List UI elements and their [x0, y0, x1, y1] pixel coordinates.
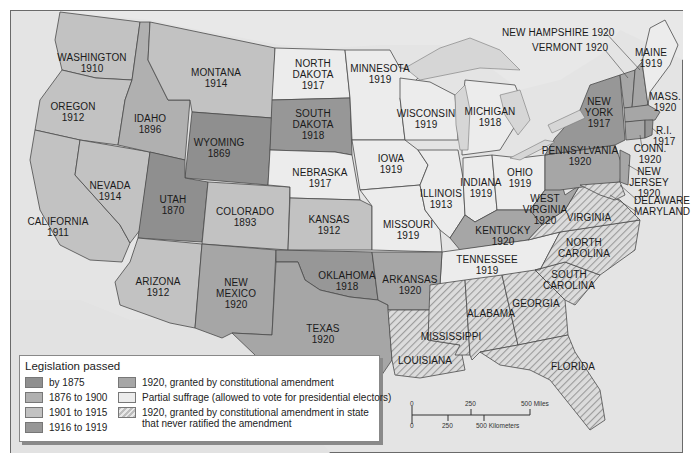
state-year: 1910: [81, 63, 104, 74]
state-year: 1919: [415, 119, 438, 130]
state-name: UTAH: [160, 194, 187, 205]
state-name: INDIANA: [460, 177, 501, 188]
state-year: 1911: [47, 227, 69, 238]
label-louisiana: LOUISIANA: [398, 355, 452, 366]
state-year: 1912: [62, 112, 85, 123]
label-new-york: NEW YORK1917: [585, 96, 614, 129]
swatch-partial-suffrage: [118, 392, 136, 403]
state-name: MARYLAND: [634, 206, 690, 217]
state-year: 1917: [588, 118, 611, 129]
label-ohio: OHIO1919: [507, 167, 533, 189]
state-year: 1920: [312, 334, 335, 345]
state-name: IOWA: [378, 153, 405, 164]
state-name: NEBRASKA: [292, 167, 347, 178]
state-year: 1914: [205, 78, 228, 89]
label-vermont: VERMONT 1920: [532, 42, 608, 53]
legend-item-partial-suffrage: Partial suffrage (allowed to vote for pr…: [118, 392, 391, 403]
state-year: 1920: [225, 299, 248, 310]
scale-bar: 0 250 500 Miles 0 250 500 Kilometers: [408, 400, 538, 430]
state-name: SOUTH CAROLINA: [543, 269, 595, 291]
label-florida: FLORIDA: [551, 361, 595, 372]
state-year: 1919: [369, 74, 392, 85]
state-name: MAINE: [635, 47, 667, 58]
state-name: WASHINGTON: [57, 52, 126, 63]
state-name: COLORADO: [216, 206, 274, 217]
state-name: NORTH DAKOTA: [293, 58, 334, 80]
label-utah: UTAH1870: [160, 194, 187, 216]
label-massachusetts: MASS.1920: [649, 91, 681, 113]
state-name: VIRGINIA: [567, 212, 612, 223]
state-name: NEW JERSEY: [629, 166, 669, 188]
label-tennessee: TENNESSEE1919: [456, 254, 517, 276]
state-year: 1919: [640, 58, 663, 69]
label-south-dakota: SOUTH DAKOTA1918: [293, 108, 334, 141]
label-michigan: MICHIGAN1918: [465, 106, 516, 128]
state-name: NORTH CAROLINA: [558, 237, 610, 259]
legend-label: Partial suffrage (allowed to vote for pr…: [142, 392, 391, 403]
scale-miles-zero: 0: [410, 400, 414, 407]
state-name: NEW HAMPSHIRE 1920: [502, 27, 614, 38]
state-name: OHIO: [507, 167, 533, 178]
legend-title: Legislation passed: [25, 360, 120, 372]
state-name: WISCONSIN: [397, 108, 456, 119]
state-year: 1918: [336, 281, 359, 292]
swatch-1920-amendment: [118, 377, 136, 388]
state-year: 1920: [399, 285, 422, 296]
state-year: 1896: [139, 124, 162, 135]
state-year: 1919: [476, 265, 499, 276]
legend-item-by-1875: by 1875: [25, 377, 85, 388]
legend-item-1901-1915: 1901 to 1915: [25, 407, 107, 418]
label-connecticut: CONN.1920: [634, 143, 667, 165]
state-year: 1893: [234, 217, 257, 228]
legend-label: by 1875: [49, 377, 85, 388]
label-idaho: IDAHO1896: [134, 113, 166, 135]
state-name: IDAHO: [134, 113, 166, 124]
label-illinois: ILLINOIS1913: [420, 188, 462, 210]
legend-label: 1916 to 1919: [49, 422, 107, 433]
label-pennsylvania: PENNSYLVANIA1920: [542, 145, 618, 167]
state-year: 1869: [208, 148, 231, 159]
state-year: 1918: [479, 117, 502, 128]
state-name: MISSOURI: [383, 219, 433, 230]
state-year: 1918: [302, 130, 325, 141]
label-kentucky: KENTUCKY1920: [475, 225, 530, 247]
label-indiana: INDIANA1919: [460, 177, 501, 199]
label-kansas: KANSAS1912: [308, 214, 349, 236]
state-year: 1920: [569, 156, 592, 167]
label-iowa: IOWA1919: [378, 153, 405, 175]
label-oklahoma: OKLAHOMA1918: [318, 270, 375, 292]
state-name: CONN.: [634, 143, 667, 154]
label-arkansas: ARKANSAS1920: [382, 274, 437, 296]
state-year: 1920: [534, 215, 557, 226]
state-year: 1917: [309, 178, 332, 189]
state-name: WEST VIRGINIA: [523, 193, 568, 215]
state-name: OKLAHOMA: [318, 270, 375, 281]
legend-item-1916-1919: 1916 to 1919: [25, 422, 107, 433]
legend-label: 1920, granted by constitutional amendmen…: [142, 407, 369, 429]
state-name: SOUTH DAKOTA: [293, 108, 334, 130]
state-name: LOUISIANA: [398, 355, 452, 366]
label-california: CALIFORNIA1911: [27, 216, 88, 238]
state-name: VERMONT 1920: [532, 42, 608, 53]
label-georgia: GEORGIA: [512, 298, 559, 309]
state-name: NEW YORK: [585, 96, 614, 118]
state-name: NEVADA: [90, 180, 131, 191]
label-north-dakota: NORTH DAKOTA1917: [293, 58, 334, 91]
state-name: FLORIDA: [551, 361, 595, 372]
label-wyoming: WYOMING1869: [194, 137, 245, 159]
label-mississippi: MISSISSIPPI: [421, 331, 482, 342]
swatch-by-1875: [25, 377, 43, 388]
label-colorado: COLORADO1893: [216, 206, 274, 228]
state-year: 1912: [147, 287, 170, 298]
state-name: OREGON: [50, 101, 95, 112]
state-name: MICHIGAN: [465, 106, 516, 117]
label-washington: WASHINGTON1910: [57, 52, 126, 74]
state-name: MINNESOTA: [350, 63, 410, 74]
state-name: WYOMING: [194, 137, 245, 148]
label-maine: MAINE1919: [635, 47, 667, 69]
state-year: 1913: [430, 199, 453, 210]
state-name: PENNSYLVANIA: [542, 145, 618, 156]
state-year: 1920: [654, 102, 677, 113]
state-year: 1919: [509, 178, 532, 189]
state-name: R.I.: [656, 125, 672, 136]
